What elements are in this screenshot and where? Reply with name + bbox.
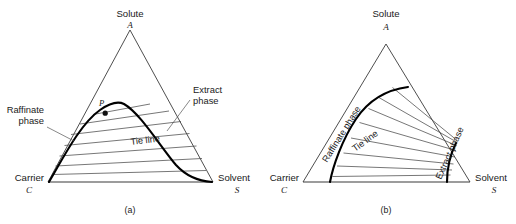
vertex-label-solvent-a: Solvent	[218, 172, 250, 183]
tie-line-label-b: Tie line	[350, 128, 380, 153]
vertex-symbol-solute-b: A	[382, 22, 389, 32]
raffinate-phase-label-b: Raffinate phase	[320, 104, 363, 164]
tie-line	[333, 175, 451, 177]
triangle-left-edge-b	[303, 44, 386, 182]
vertex-label-solute-b: Solute	[372, 8, 399, 19]
raffinate-leader-a	[47, 127, 74, 141]
tie-line-label-a: Tie line	[130, 133, 160, 146]
tie-line	[71, 122, 181, 135]
vertex-label-carrier-a: Carrier	[15, 172, 45, 183]
tie-line	[60, 146, 197, 156]
figure-root: P Solute A Carrier C Solvent S Raffinate…	[0, 0, 516, 224]
tie-line	[337, 166, 452, 170]
extract-phase-label-a-line1: Extract	[193, 84, 223, 95]
vertex-label-carrier-b: Carrier	[270, 172, 300, 183]
tie-line-group-b	[333, 88, 457, 177]
vertex-label-solute-a: Solute	[116, 8, 143, 19]
tie-line	[369, 109, 457, 146]
plait-point-label-a: P	[98, 98, 105, 108]
vertex-symbol-solute-a: A	[126, 20, 133, 30]
vertex-label-solvent-b: Solvent	[475, 172, 507, 183]
panel-caption-b: (b)	[381, 205, 392, 215]
ternary-diagram-figure: P Solute A Carrier C Solvent S Raffinate…	[0, 0, 516, 224]
tie-line	[344, 153, 454, 164]
panel-a: P Solute A Carrier C Solvent S Raffinate…	[7, 8, 251, 215]
vertex-symbol-solvent-a: S	[235, 185, 240, 195]
vertex-symbol-solvent-b: S	[492, 185, 497, 195]
vertex-symbol-carrier-b: C	[281, 185, 288, 195]
tie-line	[80, 111, 169, 124]
plait-point-marker-a	[103, 111, 108, 116]
tie-line	[56, 159, 203, 167]
raffinate-phase-label-a-line1: Raffinate	[7, 104, 44, 115]
panel-caption-a: (a)	[125, 205, 136, 215]
extract-phase-label-b: Extract phase	[434, 125, 466, 180]
tie-line	[378, 97, 457, 142]
vertex-symbol-carrier-a: C	[26, 185, 33, 195]
raffinate-phase-label-a-line2: phase	[18, 115, 44, 126]
triangle-left-edge-a	[48, 30, 130, 182]
tie-line	[65, 134, 190, 146]
panel-b: Solute A Carrier C Solvent S Raffinate p…	[270, 8, 508, 215]
extract-phase-label-a-line2: phase	[193, 95, 219, 106]
